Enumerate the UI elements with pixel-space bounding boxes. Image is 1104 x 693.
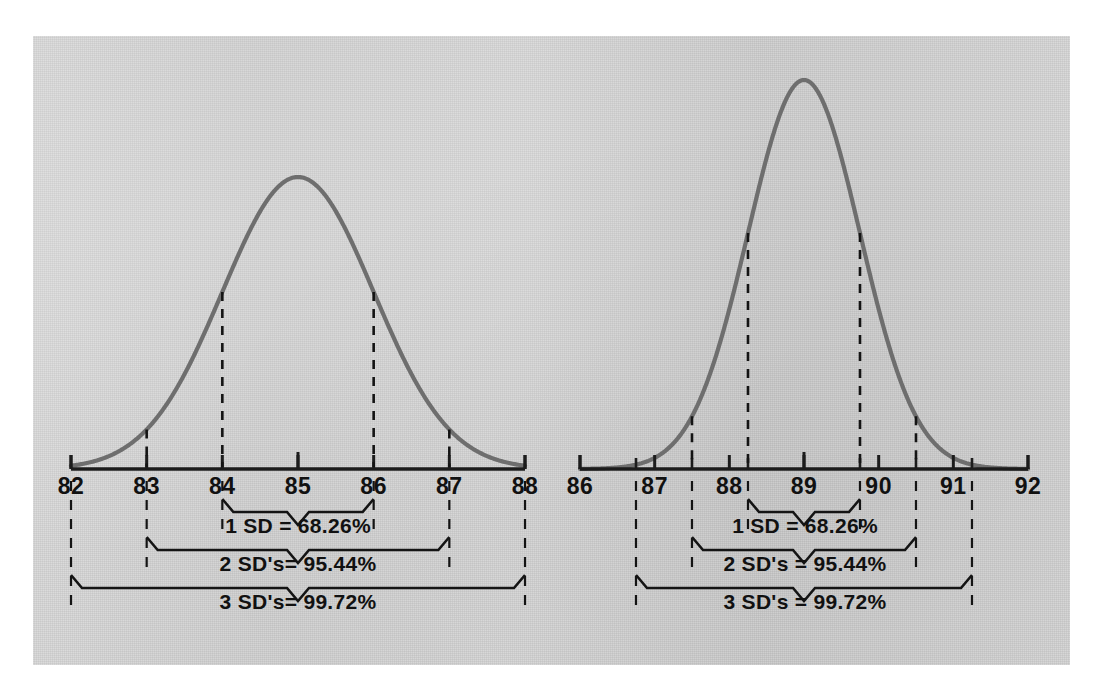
- left-normal-curve: [71, 177, 525, 466]
- left-chart: 82838485868788 1 SD = 68.26% 2 SD's= 95.…: [58, 177, 539, 613]
- axis-label-92: 92: [1015, 473, 1042, 499]
- axis-label-89: 89: [791, 473, 818, 499]
- axis-label-82: 82: [58, 473, 85, 499]
- right-chart: 86878889909192 1 SD = 68.26% 2 SD's = 95…: [567, 80, 1042, 613]
- axis-label-84: 84: [209, 473, 236, 499]
- axis-label-87: 87: [641, 473, 668, 499]
- left-tick-labels: 82838485868788: [58, 473, 539, 499]
- axis-label-83: 83: [133, 473, 160, 499]
- axis-label-87: 87: [436, 473, 463, 499]
- left-sd2-label: 2 SD's= 95.44%: [220, 552, 377, 575]
- left-sd3-label: 3 SD's= 99.72%: [220, 590, 377, 613]
- figure-page: 82838485868788 1 SD = 68.26% 2 SD's= 95.…: [0, 0, 1104, 693]
- left-sd1-label: 1 SD = 68.26%: [225, 514, 371, 537]
- right-dashed-sd-lines: [636, 233, 972, 607]
- axis-label-88: 88: [512, 473, 539, 499]
- right-tick-labels: 86878889909192: [567, 473, 1042, 499]
- axis-label-86: 86: [360, 473, 387, 499]
- right-normal-curve: [580, 80, 1028, 469]
- axis-label-88: 88: [716, 473, 743, 499]
- axis-label-85: 85: [285, 473, 312, 499]
- right-sd1-label: 1 SD = 68.26%: [732, 514, 878, 537]
- right-sd3-label: 3 SD's = 99.72%: [723, 590, 886, 613]
- right-sd2-label: 2 SD's = 95.44%: [723, 552, 886, 575]
- axis-label-90: 90: [865, 473, 892, 499]
- normal-curves-figure: 82838485868788 1 SD = 68.26% 2 SD's= 95.…: [0, 0, 1104, 693]
- axis-label-91: 91: [940, 473, 967, 499]
- axis-label-86: 86: [567, 473, 594, 499]
